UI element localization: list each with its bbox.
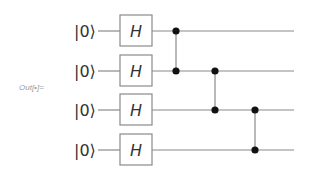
ket-zero-label: |0⟩ [74,62,96,81]
quantum-circuit-diagram: |0⟩H|0⟩H|0⟩H|0⟩H [0,0,313,178]
gate-label: H [130,62,142,81]
ket-zero-label: |0⟩ [74,101,96,120]
qubit-row: |0⟩H [74,94,294,125]
gate-label: H [130,141,142,160]
qubit-row: |0⟩H [74,55,294,86]
control-dot-icon [172,67,179,74]
control-dot-icon [211,106,218,113]
controlled-z-gate [251,106,258,153]
qubit-row: |0⟩H [74,15,294,46]
qubit-row: |0⟩H [74,134,294,165]
gate-label: H [130,101,142,120]
ket-zero-label: |0⟩ [74,141,96,160]
gate-label: H [130,22,142,41]
control-dot-icon [251,106,258,113]
control-dot-icon [211,67,218,74]
controlled-z-gate [211,67,218,113]
control-dot-icon [172,27,179,34]
ket-zero-label: |0⟩ [74,22,96,41]
control-dot-icon [251,146,258,153]
controlled-z-gate [172,27,179,74]
